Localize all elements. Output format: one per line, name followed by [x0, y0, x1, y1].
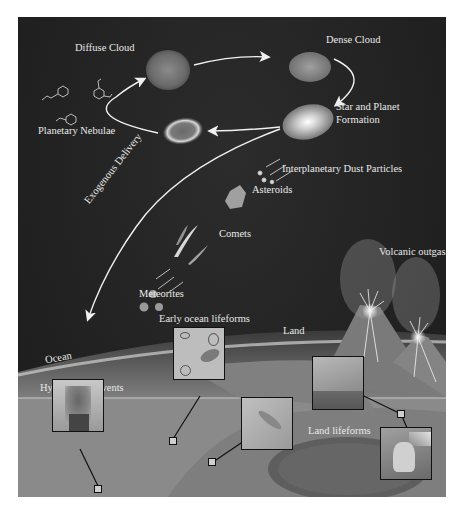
- label-asteroids: Asteroids: [252, 184, 292, 196]
- label-star-planet-formation-line1: Star and Planet: [336, 101, 400, 113]
- label-dense-cloud: Dense Cloud: [326, 34, 381, 46]
- label-meteorites: Meteorites: [139, 288, 184, 300]
- label-volcanic-outgassing: Volcanic outgassing: [379, 246, 446, 258]
- molecule-icons: [42, 79, 112, 125]
- planetary-nebulae-image: [161, 115, 205, 148]
- label-land: Land: [283, 325, 305, 337]
- inset-land-lifeforms-1: [241, 397, 293, 450]
- dense-cloud-image: [289, 52, 331, 82]
- comets-image: [174, 225, 208, 265]
- asteroid-image: [225, 185, 246, 209]
- label-diffuse-cloud: Diffuse Cloud: [75, 42, 135, 54]
- inset-land-lifeforms-3: [380, 427, 432, 480]
- pin-land-lifeforms-1: [208, 458, 216, 466]
- label-planetary-nebulae: Planetary Nebulae: [38, 125, 115, 137]
- diffuse-cloud-image: [146, 50, 190, 90]
- label-comets: Comets: [219, 228, 251, 240]
- inset-land-lifeforms-2: [312, 356, 364, 410]
- label-star-planet-formation-line2: Formation: [336, 114, 380, 126]
- pin-land-lifeforms-2: [397, 410, 405, 418]
- label-interplanetary-dust: Interplanetary Dust Particles: [282, 163, 402, 175]
- pin-hydrothermal-vents: [94, 485, 102, 493]
- inset-early-ocean-lifeforms: [173, 327, 225, 380]
- diagram-frame: Diffuse Cloud Dense Cloud Star and Plane…: [18, 17, 446, 497]
- label-land-lifeforms: Land lifeforms: [308, 425, 371, 437]
- inset-hydrothermal-vents: [52, 379, 104, 432]
- label-early-ocean-lifeforms: Early ocean lifeforms: [159, 313, 250, 325]
- pin-early-ocean-lifeforms: [169, 437, 177, 445]
- star-formation-image: [278, 99, 337, 145]
